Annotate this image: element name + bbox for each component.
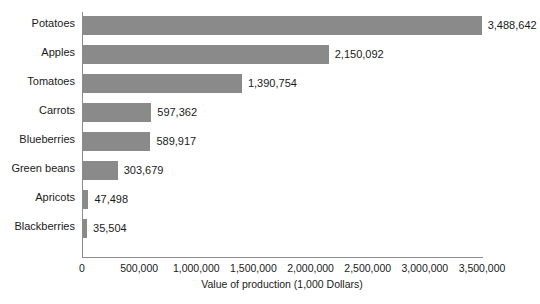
bar	[83, 74, 242, 93]
x-tick-label: 3,000,000	[401, 261, 448, 275]
bar-group: 47,498	[83, 190, 128, 209]
category-label-tomatoes: Tomatoes	[0, 75, 75, 88]
bar-group: 589,917	[83, 132, 196, 151]
bar-value-label: 1,390,754	[248, 77, 297, 90]
x-tick-label: 2,500,000	[344, 261, 391, 275]
x-tick-label: 3,500,000	[459, 261, 506, 275]
bar-group: 35,504	[83, 219, 127, 238]
bar-group: 3,488,642	[83, 16, 537, 35]
x-axis-title-text: Value of production (1,000 Dollars)	[201, 278, 362, 290]
bar	[83, 132, 150, 151]
bar-value-label: 2,150,092	[335, 48, 384, 61]
x-tick-label: 1,000,000	[173, 261, 220, 275]
x-tick-label: 1,500,000	[230, 261, 277, 275]
category-label-apples: Apples	[0, 46, 75, 59]
x-axis-title: Value of production (1,000 Dollars)	[0, 278, 540, 290]
bar-value-label: 589,917	[156, 135, 196, 148]
x-axis-tick-labels: 0500,0001,000,0001,500,0002,000,0002,500…	[0, 261, 540, 277]
bar-group: 2,150,092	[83, 45, 384, 64]
bar	[83, 45, 329, 64]
bar-value-label: 47,498	[94, 193, 128, 206]
category-label-blackberries: Blackberries	[0, 220, 75, 233]
bar	[83, 161, 118, 180]
bar	[83, 103, 151, 122]
x-axis-line	[82, 257, 483, 258]
category-label-apricots: Apricots	[0, 191, 75, 204]
x-tick-label: 2,000,000	[287, 261, 334, 275]
bar-chart: Potatoes3,488,642Apples2,150,092Tomatoes…	[0, 0, 540, 304]
bar-value-label: 303,679	[124, 164, 164, 177]
bar-row: Potatoes3,488,642	[0, 12, 540, 41]
bar	[83, 16, 482, 35]
bar-group: 597,362	[83, 103, 197, 122]
category-label-potatoes: Potatoes	[0, 17, 75, 30]
category-label-green-beans: Green beans	[0, 162, 75, 175]
bar-row: Blueberries589,917	[0, 128, 540, 157]
category-label-blueberries: Blueberries	[0, 133, 75, 146]
bar-row: Tomatoes1,390,754	[0, 70, 540, 99]
bar-value-label: 35,504	[93, 222, 127, 235]
x-tick-label: 500,000	[120, 261, 158, 275]
bar-row: Blackberries35,504	[0, 215, 540, 244]
bar-row: Apricots47,498	[0, 186, 540, 215]
bar-value-label: 3,488,642	[488, 19, 537, 32]
bar	[83, 219, 87, 238]
bar-row: Green beans303,679	[0, 157, 540, 186]
bar	[83, 190, 88, 209]
bar-row: Carrots597,362	[0, 99, 540, 128]
category-label-carrots: Carrots	[0, 104, 75, 117]
bar-group: 1,390,754	[83, 74, 297, 93]
bar-rows: Potatoes3,488,642Apples2,150,092Tomatoes…	[0, 12, 540, 244]
x-tick-label: 0	[79, 261, 85, 275]
bar-group: 303,679	[83, 161, 163, 180]
bar-value-label: 597,362	[157, 106, 197, 119]
bar-row: Apples2,150,092	[0, 41, 540, 70]
